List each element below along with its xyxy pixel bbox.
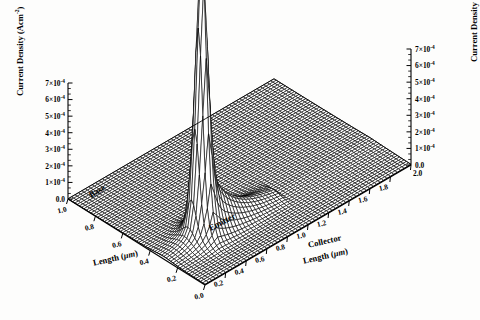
svg-text:0.8: 0.8 — [275, 242, 286, 253]
svg-text:7×10-4: 7×10-4 — [415, 44, 435, 54]
svg-text:1.0: 1.0 — [56, 205, 67, 216]
svg-text:3×10-4: 3×10-4 — [415, 110, 435, 120]
svg-text:4×10-4: 4×10-4 — [415, 94, 435, 104]
svg-text:5×10-4: 5×10-4 — [415, 77, 435, 87]
svg-text:1.2: 1.2 — [316, 218, 327, 229]
svg-text:7×10-4: 7×10-4 — [45, 78, 65, 88]
z-axis-title-right: Current Density (Acm-2) — [468, 0, 479, 62]
svg-text:0.2: 0.2 — [166, 273, 177, 284]
svg-text:6×10-4: 6×10-4 — [415, 60, 435, 70]
svg-text:1.6: 1.6 — [357, 194, 368, 205]
svg-text:1.4: 1.4 — [337, 206, 348, 217]
svg-text:6×10-4: 6×10-4 — [45, 94, 65, 104]
svg-text:0.6: 0.6 — [254, 254, 265, 265]
svg-text:0.0: 0.0 — [193, 291, 204, 302]
svg-text:0.4: 0.4 — [139, 256, 150, 267]
svg-text:0.2: 0.2 — [213, 278, 224, 289]
svg-text:1×10-4: 1×10-4 — [415, 143, 435, 153]
svg-text:0.8: 0.8 — [84, 222, 95, 233]
svg-text:2.0: 2.0 — [413, 169, 423, 178]
svg-text:1×10-4: 1×10-4 — [45, 177, 65, 187]
svg-text:2×10-4: 2×10-4 — [45, 161, 65, 171]
svg-text:5×10-4: 5×10-4 — [45, 111, 65, 121]
svg-text:4×10-4: 4×10-4 — [45, 128, 65, 138]
plot-canvas: 0.01×10-42×10-43×10-44×10-45×10-46×10-47… — [0, 0, 480, 320]
svg-text:1.8: 1.8 — [378, 182, 389, 193]
svg-text:2×10-4: 2×10-4 — [415, 127, 435, 137]
figure-3d-surface-plot: 0.01×10-42×10-43×10-44×10-45×10-46×10-47… — [0, 0, 480, 320]
svg-text:3×10-4: 3×10-4 — [45, 144, 65, 154]
svg-text:1.0: 1.0 — [295, 230, 306, 241]
svg-text:0.4: 0.4 — [234, 266, 245, 277]
svg-text:0.0: 0.0 — [56, 195, 66, 204]
svg-text:0.6: 0.6 — [111, 239, 122, 250]
z-axis-title-left: Current Density (Acm-2) — [14, 7, 25, 97]
